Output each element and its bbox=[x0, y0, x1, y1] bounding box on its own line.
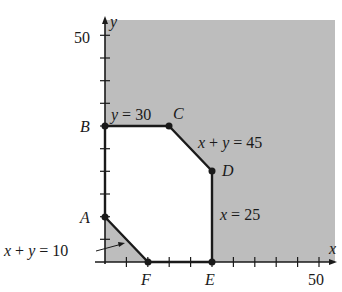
label-d: D bbox=[221, 162, 234, 179]
label-line-xy10: x + y = 10 bbox=[3, 242, 68, 260]
label-line-xy45: x + y = 45 bbox=[197, 134, 262, 152]
point-a bbox=[102, 214, 109, 221]
x-tick-label-50: 50 bbox=[308, 271, 324, 288]
label-f: F bbox=[140, 271, 151, 288]
point-d bbox=[209, 168, 216, 175]
label-line-x25: x = 25 bbox=[219, 206, 260, 223]
label-a: A bbox=[79, 209, 90, 226]
label-line-y30: y = 30 bbox=[109, 106, 151, 124]
point-e bbox=[209, 259, 216, 266]
point-f bbox=[145, 259, 152, 266]
point-c bbox=[166, 123, 173, 130]
point-b bbox=[102, 123, 109, 130]
label-e: E bbox=[204, 271, 215, 288]
graph: y x 50 50 A B C D E F y = 30 x + y = 45 … bbox=[0, 0, 342, 292]
y-tick-label-50: 50 bbox=[74, 29, 90, 46]
x-axis-label: x bbox=[328, 240, 336, 257]
label-c: C bbox=[173, 105, 184, 122]
y-axis-label: y bbox=[108, 13, 118, 31]
label-b: B bbox=[80, 118, 90, 135]
